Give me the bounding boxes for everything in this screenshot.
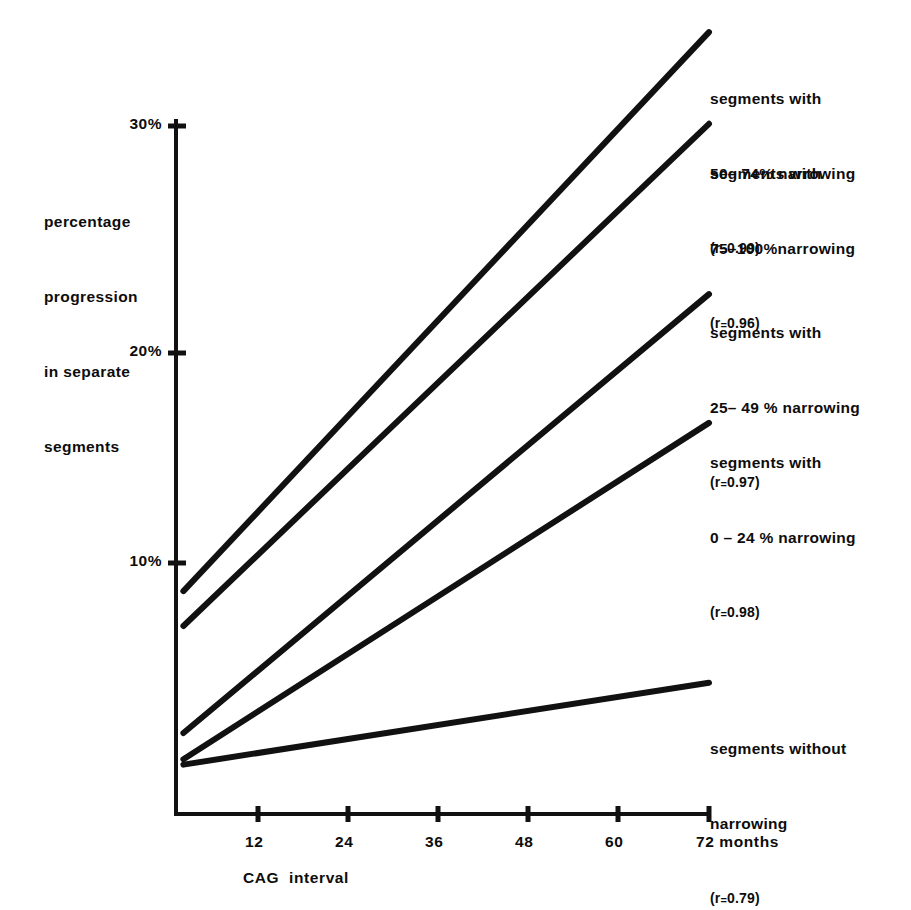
x-tick-label-12: 12 [245,833,263,851]
legend-without-correlation: (r=0.79) [710,886,847,910]
legend-50-74-line-1: segments with [710,86,856,111]
legend-segments-0-24: segments with 0 – 24 % narrowing (r=0.98… [710,400,856,677]
series-line-75-100 [183,124,709,626]
x-axis-title: CAG interval [243,869,349,887]
legend-0-24-line-2: 0 – 24 % narrowing [710,525,856,550]
legend-without-line-2: narrowing [710,811,847,836]
series-line-0-24 [183,423,709,759]
legend-0-24-line-1: segments with [710,450,856,475]
legend-0-24-r-prefix: (r [710,604,721,620]
legend-without-r-value: 0.79) [727,890,760,906]
series-line-without-narrowing [183,683,709,765]
x-tick-label-24: 24 [335,833,353,851]
legend-0-24-r-value: 0.98) [727,604,760,620]
y-axis-title: percentage progression in separate segme… [44,159,138,509]
legend-75-100-line-2: 75–100%narrowing [710,236,855,261]
legend-without-line-1: segments without [710,736,847,761]
y-axis-title-line-4: segments [44,434,138,459]
legend-25-49-line-1: segments with [710,320,860,345]
y-tick-label-10: 10% [86,552,162,570]
y-axis-title-line-1: percentage [44,209,138,234]
x-tick-label-36: 36 [425,833,443,851]
series-line-25-49 [183,294,709,733]
legend-without-r-prefix: (r [710,890,721,906]
x-tick-label-60: 60 [605,833,623,851]
y-axis-title-line-3: in separate [44,359,138,384]
legend-segments-without-narrowing: segments without narrowing (r=0.79) [710,686,847,910]
legend-75-100-line-1: segments with [710,161,855,186]
series-line-50-74 [183,32,709,591]
legend-0-24-correlation: (r=0.98) [710,600,856,627]
x-tick-label-48: 48 [515,833,533,851]
y-axis-title-line-2: progression [44,284,138,309]
y-tick-label-30: 30% [86,115,162,133]
